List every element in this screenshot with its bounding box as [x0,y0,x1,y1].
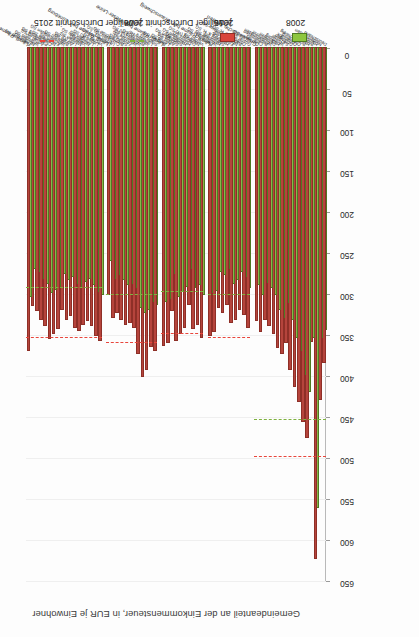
bar-2015 [162,47,166,346]
legend-swatch-avg2008 [130,40,144,42]
axis-tick [326,458,330,459]
axis-tick-label: 350 [340,333,354,343]
axis-tick-label: 150 [340,169,354,179]
average-line-2015 [106,342,157,343]
average-line-2008 [106,294,157,295]
bar-2015 [107,47,111,295]
bar-2015 [208,47,212,336]
grid-line [26,540,326,541]
grid-line [26,581,326,582]
legend-label-y2015: 2015 [214,18,233,28]
axis-tick [326,376,330,377]
legend-swatch-y2015 [220,33,235,42]
axis-tick [326,499,330,500]
plot-area: 050100150200250300350400450500550600650D… [26,49,326,582]
average-line-2008 [161,291,203,292]
grid-line [26,499,326,500]
axis-tick [326,417,330,418]
grid-line [26,376,326,377]
axis-tick-label: 550 [340,497,354,507]
average-line-2008 [26,287,102,288]
axis-tick [326,335,330,336]
average-line-2015 [161,333,203,334]
axis-tick-label: 500 [340,456,354,466]
average-line-2015 [254,456,326,457]
axis-tick-label: 200 [340,210,354,220]
bar-2015 [255,47,259,321]
axis-tick-label: 100 [340,128,354,138]
legend-swatch-y2008 [292,33,307,42]
average-line-2015 [208,337,250,338]
average-line-2015 [26,337,102,338]
axis-tick-label: 650 [340,579,354,589]
average-line-2008 [208,294,250,295]
axis-tick [326,581,330,582]
axis-tick [326,540,330,541]
axis-tick-label: 450 [340,415,354,425]
axis-tick-label: 600 [340,538,354,548]
average-line-2008 [254,419,326,420]
axis-tick-label: 0 [345,51,350,61]
chart-canvas: Gemeindeanteil an der Einkommensteuer, i… [0,0,419,637]
legend-swatch-avg2015 [40,40,54,42]
bar-2015 [27,47,31,351]
axis-tick-label: 400 [340,374,354,384]
grid-line [26,458,326,459]
rotated-figure: Gemeindeanteil an der Einkommensteuer, i… [0,0,419,637]
legend-label-y2008: 2008 [286,18,305,28]
axis-title: Gemeindeanteil an der Einkommensteuer, i… [0,609,300,619]
axis-tick-label: 250 [340,251,354,261]
axis-tick-label: 50 [342,89,351,99]
axis-tick-label: 300 [340,292,354,302]
